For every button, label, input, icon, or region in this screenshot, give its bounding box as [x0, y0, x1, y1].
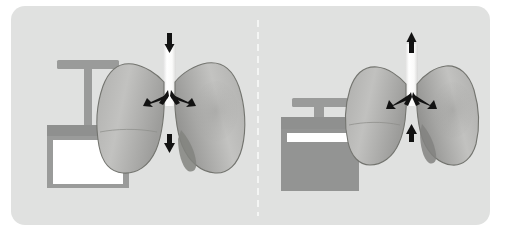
inhalation-graphics: [11, 6, 257, 225]
syringe-handle-bar: [57, 60, 119, 69]
arrow-up-icon-diaphragm: [406, 124, 417, 142]
lungs-icon-inflating: [97, 33, 245, 173]
lung-right-shading: [433, 82, 473, 138]
inhalation-panel: Inhalation: [11, 6, 257, 225]
syringe-chamber-air-gap: [287, 133, 353, 142]
syringe-handle-stem: [314, 106, 324, 118]
exhalation-panel: Exhalation: [259, 6, 490, 225]
syringe-handle-stem: [84, 68, 92, 126]
breathing-mechanics-figure: Inhalation: [0, 0, 508, 233]
arrow-down-icon-diaphragm: [164, 134, 175, 153]
syringe-handle-bar: [292, 98, 348, 107]
figure-board: Inhalation: [11, 6, 490, 225]
lung-left: [97, 64, 164, 173]
lungs-icon-deflating: [346, 32, 479, 165]
lung-left: [346, 67, 407, 165]
lung-right-shading: [194, 81, 238, 141]
exhalation-graphics: [259, 6, 490, 225]
